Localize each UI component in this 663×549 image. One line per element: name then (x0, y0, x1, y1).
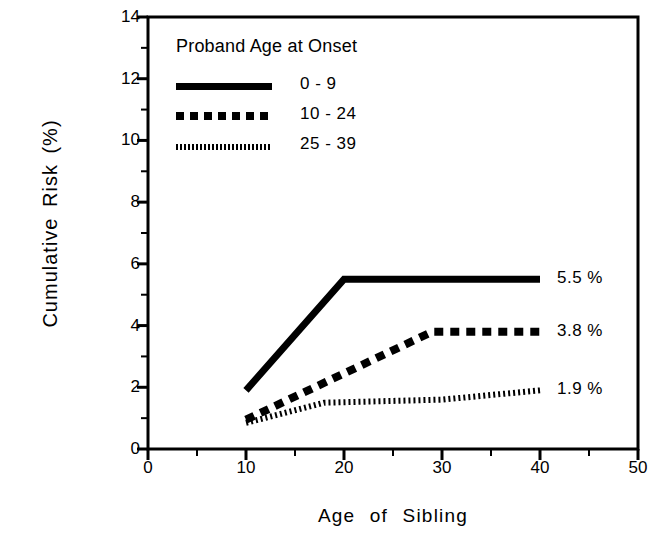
legend-entry-2: 10 - 24 (176, 101, 476, 127)
x-tick-label: 40 (517, 458, 563, 478)
y-tick-label: 6 (100, 254, 140, 274)
legend-entry-3: 25 - 39 (176, 131, 476, 157)
legend-entry-label: 10 - 24 (300, 104, 356, 124)
series-end-label-2: 3.8 % (557, 321, 603, 341)
y-tick-label: 12 (100, 69, 140, 89)
y-tick-label: 0 (100, 439, 140, 459)
chart-figure: Cumulative Risk (%) Age of Sibling 02468… (0, 0, 663, 549)
x-tick-label: 0 (125, 458, 171, 478)
series-line-1 (246, 279, 540, 390)
legend-entry-label: 0 - 9 (300, 74, 337, 94)
series-end-label-3: 1.9 % (557, 379, 603, 399)
chart-legend: Proband Age at Onset 0 - 910 - 2425 - 39 (176, 36, 476, 161)
legend-title: Proband Age at Onset (176, 36, 476, 57)
x-tick-label: 10 (223, 458, 269, 478)
y-tick-label: 14 (100, 7, 140, 27)
y-tick-label: 2 (100, 377, 140, 397)
x-tick-label: 50 (615, 458, 661, 478)
legend-entry-label: 25 - 39 (300, 134, 356, 154)
x-tick-label: 30 (419, 458, 465, 478)
y-tick-label: 4 (100, 316, 140, 336)
legend-entries: 0 - 910 - 2425 - 39 (176, 71, 476, 157)
legend-line-swatch (176, 144, 272, 150)
y-tick-label: 8 (100, 192, 140, 212)
x-tick-label: 20 (321, 458, 367, 478)
legend-line-swatch (176, 112, 272, 120)
legend-line-swatch (176, 83, 272, 90)
y-tick-label: 10 (100, 130, 140, 150)
data-series-group (246, 279, 540, 422)
x-axis-tick-labels: 01020304050 (0, 458, 663, 488)
legend-entry-1: 0 - 9 (176, 71, 476, 97)
series-end-label-1: 5.5 % (557, 268, 603, 288)
